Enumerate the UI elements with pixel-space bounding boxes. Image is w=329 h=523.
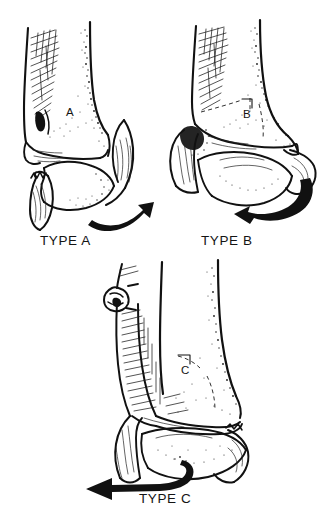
- stipple-shading-c: [176, 267, 237, 414]
- force-arrow-b: [234, 178, 313, 224]
- force-arrow-a: [88, 202, 154, 231]
- stipple-shading-a: [50, 29, 105, 146]
- type-b-illustration: B: [164, 0, 329, 258]
- hatching-shading-a: [31, 30, 59, 120]
- type-c-illustration: C: [60, 258, 275, 523]
- lateral-malleolus-c: [115, 416, 142, 483]
- panel-type-a: A TYPE A: [0, 0, 165, 258]
- bone-label-a: A: [66, 106, 74, 118]
- fibular-fracture-a: [35, 110, 49, 134]
- hatching-shading-c: [120, 266, 188, 414]
- fibula-shaft-c: [116, 264, 156, 416]
- distal-tibia-a: [24, 142, 108, 164]
- type-a-illustration: A: [0, 0, 165, 258]
- fibular-fragment-a: [30, 172, 53, 230]
- tibia-shaft-c: [160, 260, 241, 418]
- bone-label-c: C: [181, 364, 189, 376]
- talus-b: [198, 152, 292, 205]
- panel-type-c: C: [60, 258, 275, 523]
- bone-label-b: B: [243, 108, 251, 120]
- hatching-shading-b: [199, 27, 228, 110]
- caption-type-c: TYPE C: [139, 491, 191, 506]
- caption-type-b: TYPE B: [201, 233, 253, 248]
- fracture-classification-figure: A TYPE A: [0, 0, 329, 523]
- panel-type-b: B: [164, 0, 329, 258]
- talus-c: [141, 428, 246, 479]
- distal-tibia-b: [195, 124, 298, 155]
- high-fibular-fracture-c: [104, 284, 138, 311]
- caption-type-a: TYPE A: [40, 233, 91, 248]
- fracture-line-b: [201, 98, 263, 138]
- tibia-shaft-a: [24, 22, 110, 156]
